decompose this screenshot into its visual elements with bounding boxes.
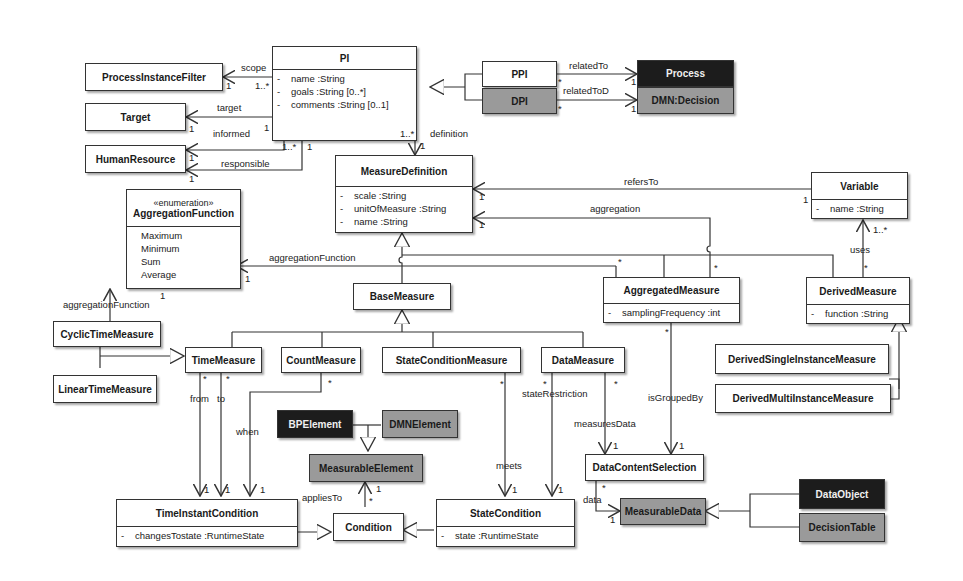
enum-literal: Average: [131, 268, 236, 281]
class-data-object[interactable]: DataObject: [799, 479, 885, 509]
class-cyclic-time-measure[interactable]: CyclicTimeMeasure: [53, 321, 161, 347]
role-state-restriction: stateRestriction: [522, 388, 587, 399]
multiplicity: 1: [264, 122, 269, 133]
multiplicity: 1: [160, 290, 165, 301]
class-name: Condition: [334, 514, 403, 540]
class-variable[interactable]: Variable -name :String: [811, 172, 908, 219]
enum-literal: Maximum: [131, 229, 236, 242]
role-is-grouped-by: isGroupedBy: [648, 392, 703, 403]
multiplicity: 1: [376, 483, 381, 494]
multiplicity: 1: [245, 273, 250, 284]
class-pi[interactable]: PI -name :String -goals :String [0..*] -…: [272, 46, 417, 141]
class-target[interactable]: Target: [85, 103, 186, 131]
multiplicity: 1: [189, 123, 194, 134]
class-time-instant-condition[interactable]: TimeInstantCondition -changesTostate :Ru…: [116, 499, 298, 547]
class-name: AggregatedMeasure: [604, 278, 739, 303]
stereotype: «enumeration»: [153, 198, 213, 208]
class-condition[interactable]: Condition: [333, 513, 404, 541]
multiplicity: 1: [420, 140, 425, 151]
class-aggregated-measure[interactable]: AggregatedMeasure -samplingFrequency :in…: [603, 277, 740, 323]
class-name: DataObject: [800, 480, 884, 508]
attributes-compartment: -function :String: [807, 304, 909, 322]
class-decision-table[interactable]: DecisionTable: [799, 513, 885, 542]
class-name: MeasurableElement: [310, 455, 422, 481]
class-dmn-decision[interactable]: DMN:Decision: [637, 87, 734, 114]
multiplicity: 1..*: [873, 224, 887, 235]
multiplicity: 1: [631, 76, 636, 87]
class-name: DataMeasure: [542, 348, 624, 372]
class-dpi[interactable]: DPI: [482, 88, 557, 114]
class-state-condition-measure[interactable]: StateConditionMeasure: [382, 347, 521, 373]
class-name: TimeInstantCondition: [117, 500, 297, 526]
class-dmn-element[interactable]: DMNElement: [382, 410, 458, 438]
class-count-measure[interactable]: CountMeasure: [281, 347, 361, 373]
attribute: -state :RuntimeState: [441, 529, 570, 542]
class-name: DerivedMultiInstanceMeasure: [716, 385, 890, 412]
attributes-compartment: -name :String: [812, 199, 907, 217]
class-bp-element[interactable]: BPElement: [277, 410, 353, 438]
class-derived-measure[interactable]: DerivedMeasure -function :String: [806, 277, 910, 324]
class-measurable-element[interactable]: MeasurableElement: [309, 454, 423, 482]
class-process-instance-filter[interactable]: ProcessInstanceFilter: [85, 63, 223, 91]
class-data-content-selection[interactable]: DataContentSelection: [585, 454, 704, 481]
role-data: data: [583, 494, 602, 505]
class-name: BaseMeasure: [354, 284, 450, 309]
enum-literal: Minimum: [131, 242, 236, 255]
multiplicity: 1: [631, 103, 636, 114]
class-measurable-data[interactable]: MeasurableData: [620, 498, 706, 525]
role-scope: scope: [241, 62, 266, 73]
class-state-condition[interactable]: StateCondition -state :RuntimeState: [436, 499, 575, 547]
class-name: DPI: [483, 89, 556, 113]
class-measure-definition[interactable]: MeasureDefinition -scale :String -unitOf…: [335, 155, 473, 233]
attribute: -function :String: [811, 307, 905, 320]
class-data-measure[interactable]: DataMeasure: [541, 347, 625, 373]
attributes-compartment: -samplingFrequency :int: [604, 303, 739, 321]
multiplicity: *: [614, 378, 618, 389]
role-uses: uses: [850, 244, 870, 255]
class-name: Variable: [812, 173, 907, 199]
class-derived-multi-instance-measure[interactable]: DerivedMultiInstanceMeasure: [715, 384, 891, 413]
role-when: when: [236, 426, 259, 437]
class-base-measure[interactable]: BaseMeasure: [353, 283, 451, 310]
multiplicity: 1: [260, 484, 265, 495]
multiplicity: *: [618, 256, 622, 267]
attribute: -name :String: [340, 215, 468, 228]
multiplicity: *: [714, 262, 718, 273]
class-name: AggregationFunction: [133, 208, 234, 219]
attribute: -scale :String: [340, 189, 468, 202]
class-name: MeasurableData: [621, 499, 705, 524]
multiplicity: *: [558, 76, 562, 87]
enum-aggregation-function[interactable]: «enumeration» AggregationFunction Maximu…: [126, 189, 241, 289]
role-refers-to: refersTo: [624, 176, 658, 187]
multiplicity: *: [369, 495, 373, 506]
multiplicity: *: [226, 373, 230, 384]
multiplicity: 1: [204, 484, 209, 495]
multiplicity: *: [602, 482, 606, 493]
class-name: TimeMeasure: [186, 348, 261, 372]
attribute: -name :String: [816, 202, 903, 215]
multiplicity: 1: [226, 80, 231, 91]
class-name: HumanResource: [86, 146, 185, 172]
class-ppi[interactable]: PPI: [482, 61, 557, 87]
role-from: from: [190, 393, 209, 404]
attributes-compartment: -scale :String -unitOfMeasure :String -n…: [336, 186, 472, 230]
enum-literal: Sum: [131, 255, 236, 268]
multiplicity: 1: [189, 173, 194, 184]
role-definition: definition: [430, 128, 468, 139]
class-name: DataContentSelection: [586, 455, 703, 480]
role-meets: meets: [496, 460, 522, 471]
class-time-measure[interactable]: TimeMeasure: [185, 347, 262, 373]
class-derived-single-instance-measure[interactable]: DerivedSingleInstanceMeasure: [715, 344, 889, 374]
multiplicity: *: [203, 373, 207, 384]
class-process[interactable]: Process: [637, 60, 734, 87]
multiplicity: *: [328, 377, 332, 388]
attributes-compartment: -name :String -goals :String [0..*] -com…: [273, 69, 416, 113]
class-name: DMNElement: [383, 411, 457, 437]
class-human-resource[interactable]: HumanResource: [85, 145, 186, 173]
role-related-to-d: relatedToD: [563, 85, 609, 96]
multiplicity: 1: [803, 194, 808, 205]
multiplicity: *: [500, 378, 504, 389]
class-name: StateCondition: [437, 500, 574, 526]
attributes-compartment: -changesTostate :RuntimeState: [117, 526, 297, 544]
class-linear-time-measure[interactable]: LinearTimeMeasure: [53, 375, 157, 403]
